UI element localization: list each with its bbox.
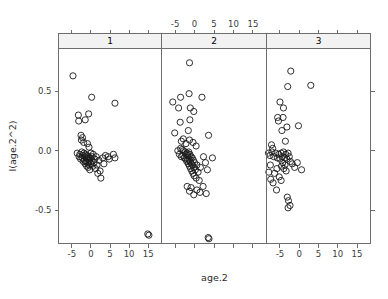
x-tick-label-top: 10 bbox=[228, 19, 239, 29]
x-tick-label-bottom: 5 bbox=[107, 249, 112, 259]
strips-group: 123 bbox=[59, 34, 371, 49]
x-tick-label-bottom: 15 bbox=[352, 249, 363, 259]
strip-label-1: 1 bbox=[107, 36, 113, 46]
x-tick-label-bottom: 0 bbox=[297, 249, 302, 259]
x-tick-label-bottom: -5 bbox=[276, 249, 284, 259]
trellis-scatter-plot: 123 -5051015-5051015-50510150.50.0-0.5ag… bbox=[0, 0, 388, 299]
panel-background-3 bbox=[267, 49, 371, 244]
y-tick-label: -0.5 bbox=[35, 205, 52, 215]
y-tick-label: 0.5 bbox=[38, 86, 52, 96]
x-tick-label-top: 0 bbox=[192, 19, 197, 29]
panels-group bbox=[59, 49, 371, 244]
panel-background-2 bbox=[162, 49, 267, 244]
x-tick-label-bottom: 10 bbox=[124, 249, 135, 259]
panel-3 bbox=[265, 49, 370, 244]
x-tick-label-bottom: -5 bbox=[68, 249, 76, 259]
strip-2: 2 bbox=[162, 34, 267, 49]
x-tick-label-bottom: 15 bbox=[143, 249, 154, 259]
strip-3: 3 bbox=[267, 34, 371, 49]
x-tick-label-top: 5 bbox=[211, 19, 216, 29]
panel-2 bbox=[162, 49, 267, 244]
panel-background-1 bbox=[59, 49, 162, 244]
strip-label-3: 3 bbox=[316, 36, 322, 46]
x-tick-label-bottom: 5 bbox=[316, 249, 321, 259]
y-axis-title: I(age.2^2) bbox=[7, 121, 18, 172]
strip-label-2: 2 bbox=[211, 36, 217, 46]
x-tick-label-top: -5 bbox=[171, 19, 179, 29]
x-tick-label-bottom: 0 bbox=[88, 249, 93, 259]
x-tick-label-bottom: 10 bbox=[332, 249, 343, 259]
panel-1 bbox=[59, 49, 162, 244]
strip-1: 1 bbox=[59, 34, 162, 49]
x-tick-label-top: 15 bbox=[247, 19, 258, 29]
plot-canvas: 123 -5051015-5051015-50510150.50.0-0.5ag… bbox=[0, 0, 388, 299]
x-axis-title: age.2 bbox=[201, 272, 228, 283]
y-tick-label: 0.0 bbox=[38, 146, 52, 156]
